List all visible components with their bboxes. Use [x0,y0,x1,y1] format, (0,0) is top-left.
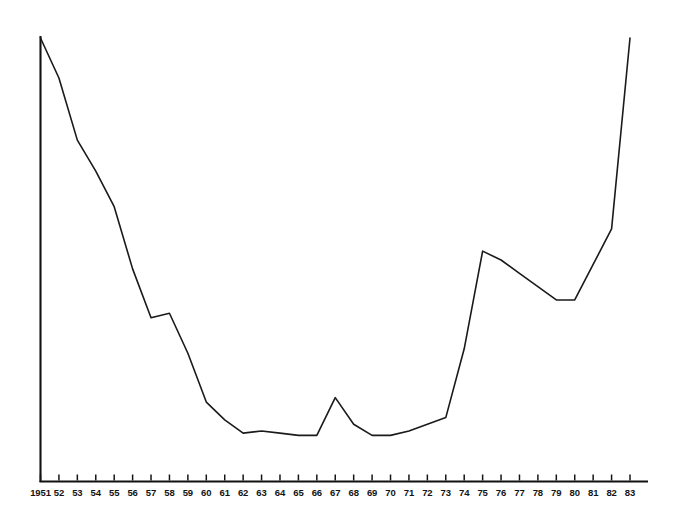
x-tick-label: 63 [256,488,266,498]
x-tick-label: 82 [606,488,616,498]
x-tick-label: 61 [220,488,230,498]
x-tick-label: 78 [533,488,543,498]
x-tick-label: 62 [238,488,248,498]
x-tick-label: 1951 [30,488,51,498]
x-tick-label: 71 [404,488,414,498]
x-tick-label: 58 [164,488,174,498]
x-tick-label: 79 [551,488,561,498]
x-tick-label: 69 [367,488,377,498]
x-tick-label: 55 [109,488,119,498]
x-tick-label: 81 [588,488,598,498]
x-tick-label: 66 [312,488,322,498]
x-tick-label: 77 [514,488,524,498]
x-tick-label: 80 [570,488,580,498]
x-tick-label: 68 [348,488,358,498]
x-axis-tick-labels: 1951525354555657585960616263646566676869… [0,0,683,527]
x-tick-label: 73 [441,488,451,498]
x-tick-label: 65 [293,488,303,498]
x-tick-label: 70 [385,488,395,498]
x-tick-label: 67 [330,488,340,498]
x-tick-label: 74 [459,488,469,498]
x-tick-label: 83 [625,488,635,498]
x-tick-label: 60 [201,488,211,498]
x-tick-label: 53 [72,488,82,498]
x-tick-label: 64 [275,488,285,498]
x-tick-label: 72 [422,488,432,498]
x-tick-label: 57 [146,488,156,498]
x-tick-label: 76 [496,488,506,498]
x-tick-label: 56 [127,488,137,498]
x-tick-label: 75 [477,488,487,498]
x-tick-label: 54 [91,488,101,498]
x-tick-label: 59 [183,488,193,498]
chart-figure: 1951525354555657585960616263646566676869… [0,0,683,527]
x-tick-label: 52 [54,488,64,498]
